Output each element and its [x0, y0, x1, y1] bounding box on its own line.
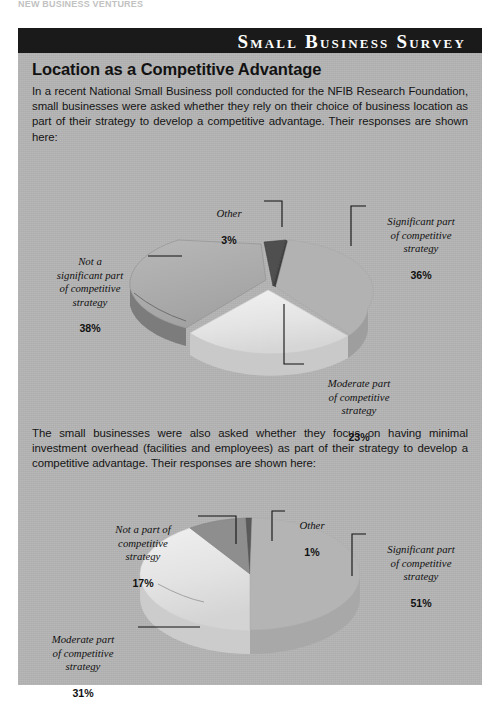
callout-significant-2-text: Significant part of competitive strategy — [387, 543, 454, 582]
survey-panel: Small Business Survey Location as a Comp… — [18, 28, 482, 685]
callout-significant-2-value: 51% — [410, 597, 431, 609]
section-overhead: The small businesses were also asked whe… — [32, 426, 468, 472]
leader-not-significant-1 — [148, 252, 184, 260]
callout-moderate-1-text: Moderate part of competitive strategy — [328, 377, 391, 416]
section-1-title: Location as a Competitive Advantage — [32, 60, 468, 79]
callout-not-significant-1: Not a significant part of competitive st… — [32, 242, 148, 336]
callout-other-1: Other 3% — [198, 194, 260, 248]
callout-not-part-2-text: Not a part of competitive strategy — [115, 523, 171, 562]
page-left-margin — [0, 0, 18, 710]
callout-significant-1-value: 36% — [410, 269, 431, 281]
leader-other-2 — [269, 508, 287, 542]
pie-chart-1: Other 3% Significant part of competitive… — [18, 168, 482, 413]
section-1-body: In a recent National Small Business poll… — [32, 84, 468, 145]
leader-significant-2 — [348, 532, 368, 578]
callout-moderate-2: Moderate part of competitive strategy 31… — [28, 620, 138, 700]
callout-moderate-2-text: Moderate part of competitive strategy — [52, 633, 115, 672]
pie-chart-2: Not a part of competitive strategy 17% O… — [18, 480, 482, 680]
callout-other-2: Other 1% — [283, 506, 341, 560]
leader-moderate-2 — [138, 622, 202, 632]
callout-significant-1: Significant part of competitive strategy… — [366, 202, 476, 282]
callout-significant-1-text: Significant part of competitive strategy — [387, 215, 454, 254]
section-2-body: The small businesses were also asked whe… — [32, 426, 468, 472]
leader-other-1 — [264, 197, 288, 229]
callout-not-significant-1-value: 38% — [79, 322, 100, 334]
callout-significant-2: Significant part of competitive strategy… — [366, 530, 476, 610]
page-top-cropped-text: NEW BUSINESS VENTURES — [18, 0, 258, 9]
leader-not-part-2 — [198, 512, 240, 546]
leader-significant-1 — [348, 204, 368, 248]
callout-not-part-2-value: 17% — [132, 577, 153, 589]
callout-moderate-2-value: 31% — [72, 687, 93, 699]
callout-other-2-text: Other — [299, 519, 324, 531]
banner-title: Small Business Survey — [238, 30, 466, 53]
survey-banner: Small Business Survey — [18, 28, 482, 53]
callout-not-part-2: Not a part of competitive strategy 17% — [88, 510, 198, 590]
section-location: Location as a Competitive Advantage In a… — [32, 60, 468, 145]
callout-other-1-text: Other — [216, 207, 241, 219]
callout-not-significant-1-text: Not a significant part of competitive st… — [57, 255, 123, 307]
callout-other-1-value: 3% — [221, 234, 236, 246]
callout-other-2-value: 1% — [304, 546, 319, 558]
leader-moderate-1 — [280, 304, 306, 370]
